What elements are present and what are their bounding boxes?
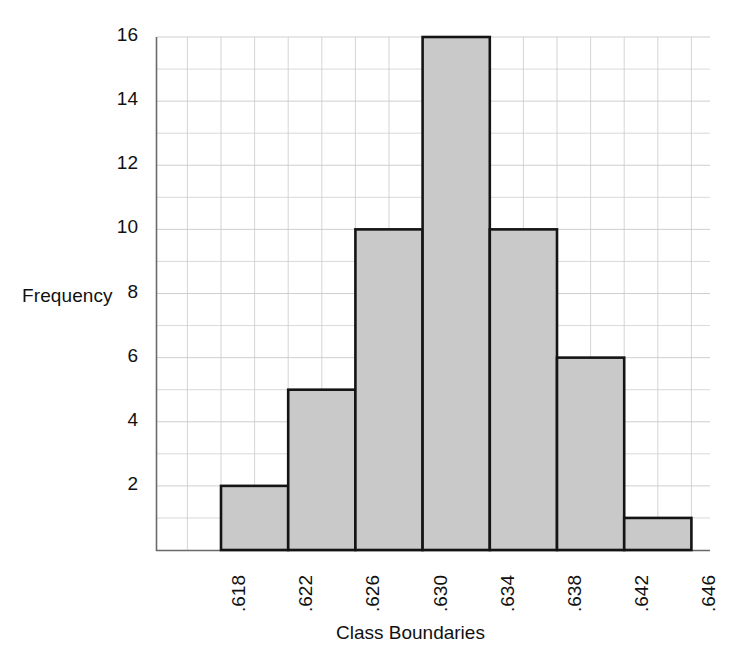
y-tick-label: 14 bbox=[98, 88, 138, 110]
y-tick-label: 4 bbox=[98, 409, 138, 431]
histogram-bar bbox=[288, 390, 355, 550]
x-axis-title: Class Boundaries bbox=[336, 622, 485, 644]
histogram-figure: Frequency 246810121416 .618.622.626.630.… bbox=[0, 0, 747, 660]
y-tick-label: 12 bbox=[98, 152, 138, 174]
x-tick-label: .642 bbox=[631, 575, 653, 612]
histogram-bar bbox=[355, 229, 422, 550]
y-tick-label: 10 bbox=[98, 216, 138, 238]
histogram-bar bbox=[557, 358, 624, 550]
x-tick-label: .622 bbox=[295, 575, 317, 612]
y-tick-label: 6 bbox=[98, 345, 138, 367]
y-tick-label: 8 bbox=[98, 281, 138, 303]
histogram-bar bbox=[221, 486, 288, 550]
histogram-bar bbox=[423, 37, 490, 550]
y-tick-label: 16 bbox=[98, 24, 138, 46]
x-tick-label: .646 bbox=[698, 575, 720, 612]
x-tick-label: .638 bbox=[564, 575, 586, 612]
y-tick-label: 2 bbox=[98, 473, 138, 495]
x-tick-label: .626 bbox=[362, 575, 384, 612]
histogram-bar bbox=[490, 229, 557, 550]
x-tick-label: .630 bbox=[430, 575, 452, 612]
histogram-bar bbox=[624, 518, 691, 550]
x-tick-label: .634 bbox=[497, 575, 519, 612]
x-tick-label: .618 bbox=[228, 575, 250, 612]
